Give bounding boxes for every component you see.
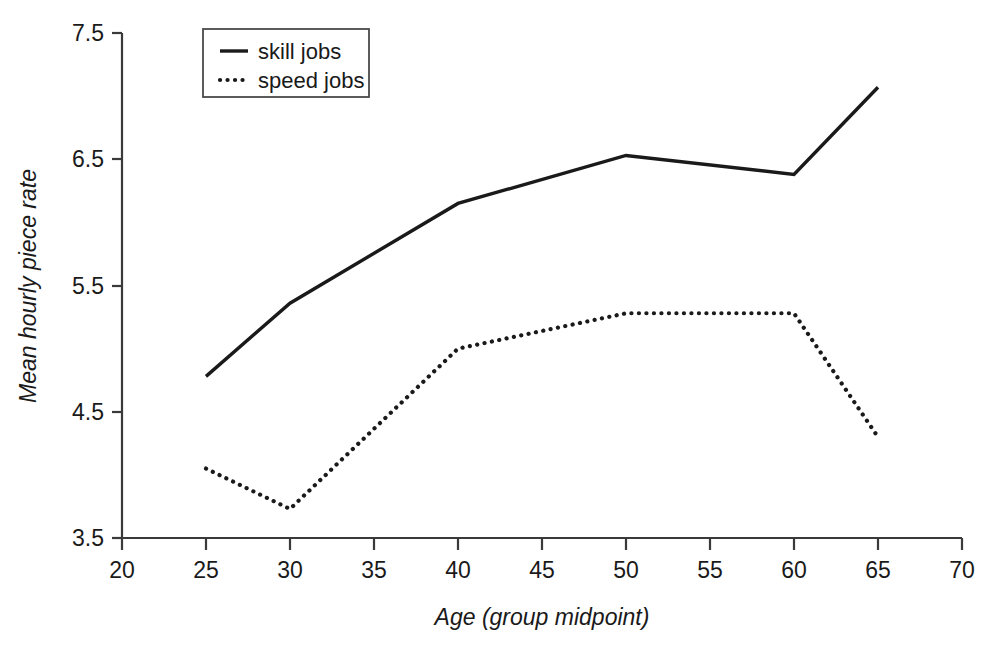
y-tick-label-5-5: 5.5 — [72, 273, 104, 299]
axis-group — [122, 33, 962, 538]
y-tick-label-4-5: 4.5 — [72, 399, 104, 425]
legend-label-skill-jobs: skill jobs — [258, 39, 341, 64]
x-tick-label-70: 70 — [949, 557, 975, 583]
x-tick-label-40: 40 — [445, 557, 471, 583]
legend: skill jobs speed jobs — [203, 29, 369, 97]
y-tick-label-7-5: 7.5 — [72, 20, 104, 46]
chart-figure: 7.5 6.5 5.5 4.5 3.5 20 25 30 35 40 — [0, 0, 997, 658]
y-tick-label-6-5: 6.5 — [72, 146, 104, 172]
x-tick-label-50: 50 — [613, 557, 639, 583]
line-chart: 7.5 6.5 5.5 4.5 3.5 20 25 30 35 40 — [0, 0, 997, 658]
y-axis-title: Mean hourly piece rate — [15, 169, 41, 403]
y-tick-labels: 7.5 6.5 5.5 4.5 3.5 — [72, 20, 104, 551]
x-tick-marks — [122, 538, 962, 550]
x-tick-label-45: 45 — [529, 557, 555, 583]
x-tick-label-20: 20 — [109, 557, 135, 583]
data-series-group — [206, 87, 878, 509]
legend-label-speed-jobs: speed jobs — [258, 68, 364, 93]
x-tick-label-25: 25 — [193, 557, 219, 583]
x-tick-label-60: 60 — [781, 557, 807, 583]
x-tick-labels: 20 25 30 35 40 45 50 55 60 65 70 — [109, 557, 975, 583]
x-tick-label-55: 55 — [697, 557, 723, 583]
x-axis-title: Age (group midpoint) — [433, 604, 650, 630]
y-tick-marks — [112, 33, 122, 538]
y-tick-label-3-5: 3.5 — [72, 525, 104, 551]
series-line-skill-jobs — [206, 87, 878, 376]
series-line-speed-jobs — [206, 313, 878, 509]
x-tick-label-65: 65 — [865, 557, 891, 583]
x-tick-label-35: 35 — [361, 557, 387, 583]
x-tick-label-30: 30 — [277, 557, 303, 583]
